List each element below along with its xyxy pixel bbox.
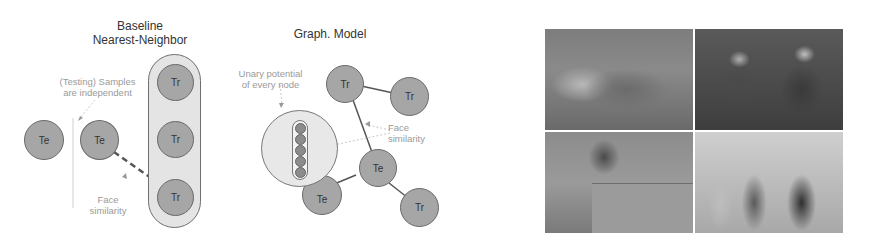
node-label: Tr — [171, 134, 180, 145]
baseline-similarity-line1: Face — [78, 194, 138, 205]
photo-group-on-rocks — [545, 29, 693, 130]
graph-train-node-3: Tr — [400, 188, 439, 227]
baseline-similarity-line2: similarity — [78, 205, 138, 216]
graph-similarity-line1: Face — [388, 122, 438, 133]
unary-note-line2: of every node — [228, 79, 313, 90]
baseline-similarity-note: Face similarity — [78, 194, 138, 216]
node-label: Te — [94, 135, 105, 146]
node-label: Te — [39, 135, 50, 146]
node-label: Te — [317, 194, 328, 205]
photo-group-indoors — [695, 132, 843, 233]
train-node-2: Tr — [157, 121, 194, 158]
unary-note-line1: Unary potential — [228, 68, 313, 79]
unary-value-dot — [295, 145, 306, 156]
graph-similarity-line2: similarity — [388, 133, 438, 144]
baseline-title: Baseline Nearest-Neighbor — [90, 19, 190, 47]
independent-note-line1: (Testing) Samples — [50, 76, 145, 87]
node-label: Te — [373, 163, 384, 174]
edge-tr-te — [353, 100, 373, 155]
unary-value-dot — [295, 167, 306, 178]
photo-couple-stone-wall — [545, 132, 693, 233]
graph-similarity-note: Face similarity — [388, 122, 438, 144]
baseline-title-line2: Nearest-Neighbor — [90, 33, 190, 47]
independent-note: (Testing) Samples are independent — [50, 76, 145, 98]
node-label: Tr — [171, 192, 180, 203]
baseline-title-line1: Baseline — [90, 19, 190, 33]
unary-value-dot — [295, 123, 306, 134]
photo-elderly-couple — [695, 29, 843, 130]
train-node-1: Tr — [157, 64, 194, 101]
train-node-3: Tr — [157, 179, 194, 216]
example-photo-grid — [545, 29, 843, 233]
graph-train-node-2: Tr — [390, 77, 429, 116]
graph-model-title: Graph. Model — [290, 27, 370, 41]
node-label: Tr — [340, 79, 349, 90]
graph-train-node-1: Tr — [326, 65, 364, 103]
node-label: Tr — [415, 202, 424, 213]
test-node-isolated: Te — [24, 120, 64, 160]
test-node-query: Te — [80, 120, 119, 160]
graph-test-node-1: Te — [359, 149, 397, 187]
node-label: Tr — [405, 91, 414, 102]
unary-value-dot — [295, 134, 306, 145]
independent-note-line2: are independent — [50, 87, 145, 98]
node-label: Tr — [171, 77, 180, 88]
unary-potential-note: Unary potential of every node — [228, 68, 313, 90]
unary-value-dot — [295, 156, 306, 167]
